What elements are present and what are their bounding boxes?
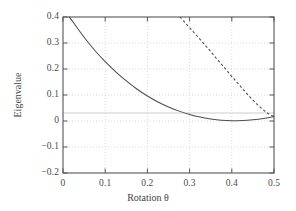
y-tick-label: 0 [54, 115, 59, 125]
y-tick-label: 0.2 [47, 63, 59, 73]
x-tick-label: 0.5 [254, 178, 294, 188]
series-line-upper-eigenvalue [180, 17, 274, 117]
x-axis-title: Rotation θ [0, 192, 296, 203]
y-tick-label: 0.4 [47, 11, 59, 21]
horizontal-gridlines [63, 43, 274, 147]
x-tick-label: 0.4 [212, 178, 252, 188]
x-tick-label: 0.1 [85, 178, 125, 188]
x-tick-label: 0.2 [127, 178, 167, 188]
y-tick-label: −0.1 [41, 141, 59, 151]
y-tick-label: 0.1 [47, 89, 59, 99]
x-tick-label: 0 [43, 178, 83, 188]
y-tick-label: −0.2 [41, 167, 59, 177]
x-tick-label: 0.3 [170, 178, 210, 188]
y-axis-title: Eigenvalue [12, 30, 23, 160]
chart-figure: 0.40.30.20.10−0.1−0.2 00.10.20.30.40.5 R… [0, 0, 296, 211]
grid-lines [63, 17, 274, 173]
y-tick-label: 0.3 [47, 37, 59, 47]
